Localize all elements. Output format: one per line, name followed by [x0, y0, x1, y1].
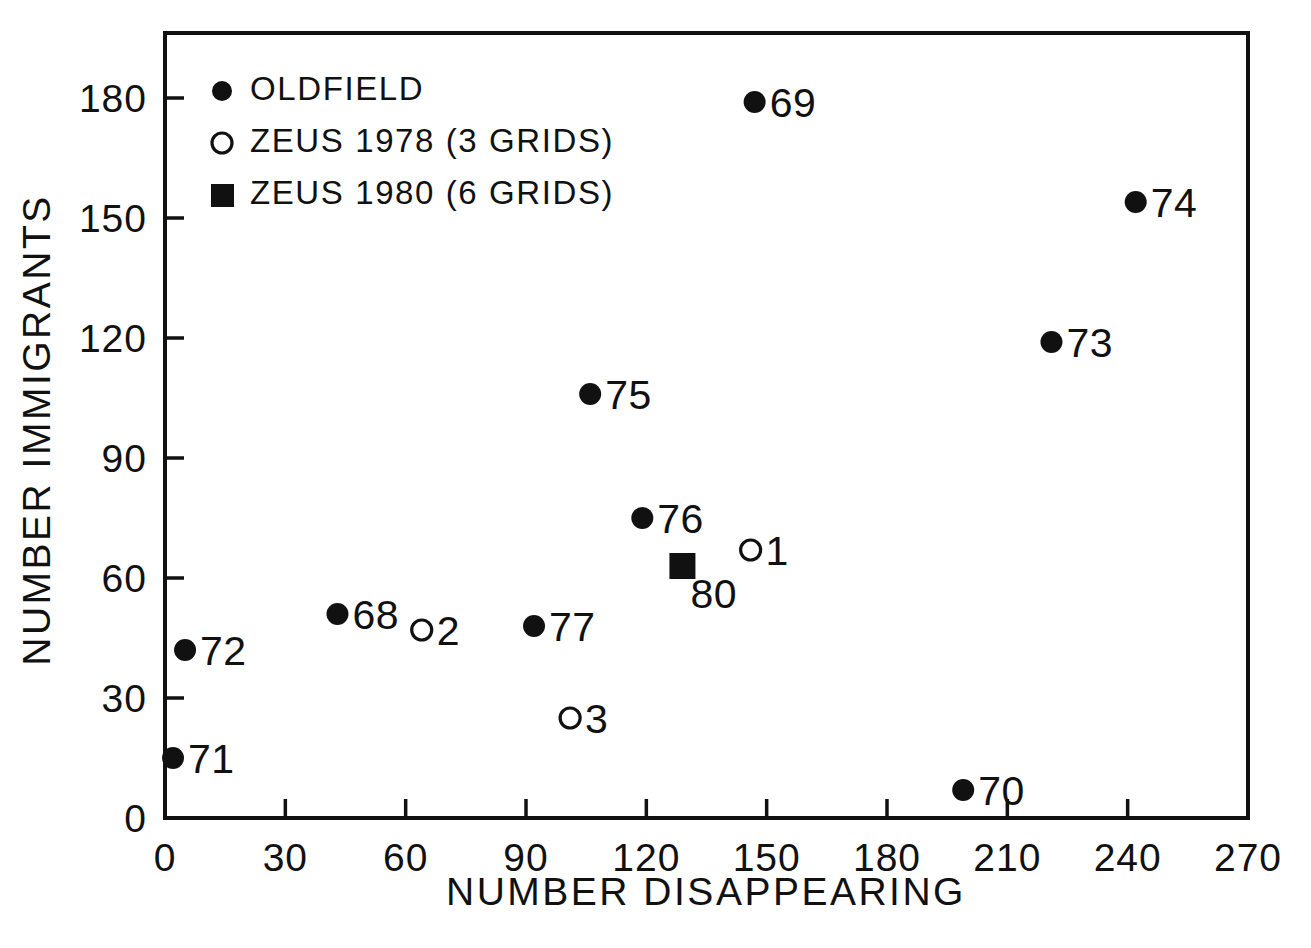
data-point-marker: [174, 639, 196, 661]
x-axis-title: NUMBER DISAPPEARING: [446, 870, 966, 913]
data-point-marker: [631, 507, 653, 529]
data-point-label: 72: [200, 628, 247, 674]
data-point-marker: [162, 747, 184, 769]
data-point-label: 75: [605, 372, 652, 418]
x-tick-label: 30: [263, 836, 308, 879]
y-tick-label: 30: [102, 677, 147, 720]
y-axis-tick-labels: 0306090120150180: [79, 77, 147, 840]
data-point-label: 70: [978, 768, 1025, 814]
data-point-marker: [326, 603, 348, 625]
y-tick-label: 150: [79, 197, 147, 240]
x-tick-label: 270: [1214, 836, 1282, 879]
data-point-marker: [579, 383, 601, 405]
x-tick-label: 0: [154, 836, 177, 879]
chart-legend: OLDFIELDZEUS 1978 (3 GRIDS)ZEUS 1980 (6 …: [211, 70, 614, 211]
data-point-label: 1: [766, 528, 789, 574]
data-point-marker: [1125, 191, 1147, 213]
legend-marker: [211, 184, 234, 207]
data-point-marker: [952, 779, 974, 801]
data-point-label: 77: [549, 604, 596, 650]
scatter-plot-figure: 0306090120150180210240270 03060901201501…: [0, 0, 1311, 948]
data-point-marker: [744, 91, 766, 113]
legend-label: ZEUS 1978 (3 GRIDS): [250, 122, 614, 159]
x-tick-label: 210: [973, 836, 1041, 879]
legend-marker: [212, 133, 232, 153]
data-point-label: 80: [690, 571, 737, 617]
data-point-marker: [741, 540, 761, 560]
data-point-marker: [523, 615, 545, 637]
y-tick-label: 90: [102, 437, 147, 480]
x-tick-label: 60: [383, 836, 428, 879]
data-point-label: 73: [1066, 320, 1113, 366]
data-point-label: 74: [1151, 180, 1198, 226]
plot-canvas: 0306090120150180210240270 03060901201501…: [0, 0, 1311, 948]
data-point-label: 76: [657, 496, 704, 542]
y-tick-label: 0: [124, 797, 147, 840]
data-point-label: 2: [437, 608, 460, 654]
legend-marker: [212, 81, 232, 101]
data-point-marker: [1040, 331, 1062, 353]
y-axis-ticks: [165, 98, 184, 698]
y-axis-title: NUMBER IMMIGRANTS: [15, 194, 58, 666]
data-point-label: 3: [585, 696, 608, 742]
x-tick-label: 240: [1094, 836, 1162, 879]
data-point-label: 68: [352, 592, 399, 638]
legend-label: ZEUS 1980 (6 GRIDS): [250, 174, 614, 211]
data-point-label: 69: [770, 80, 817, 126]
y-tick-label: 180: [79, 77, 147, 120]
legend-label: OLDFIELD: [250, 70, 424, 107]
data-point-marker: [412, 620, 432, 640]
data-point-label: 71: [188, 736, 235, 782]
y-tick-label: 60: [102, 557, 147, 600]
data-point-marker: [560, 708, 580, 728]
y-tick-label: 120: [79, 317, 147, 360]
